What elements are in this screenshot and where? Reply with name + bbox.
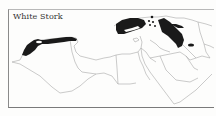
map-page: White Stork — [0, 0, 216, 116]
country-borders — [12, 16, 214, 104]
map-title: White Stork — [13, 12, 63, 21]
breeding-range — [22, 16, 194, 56]
